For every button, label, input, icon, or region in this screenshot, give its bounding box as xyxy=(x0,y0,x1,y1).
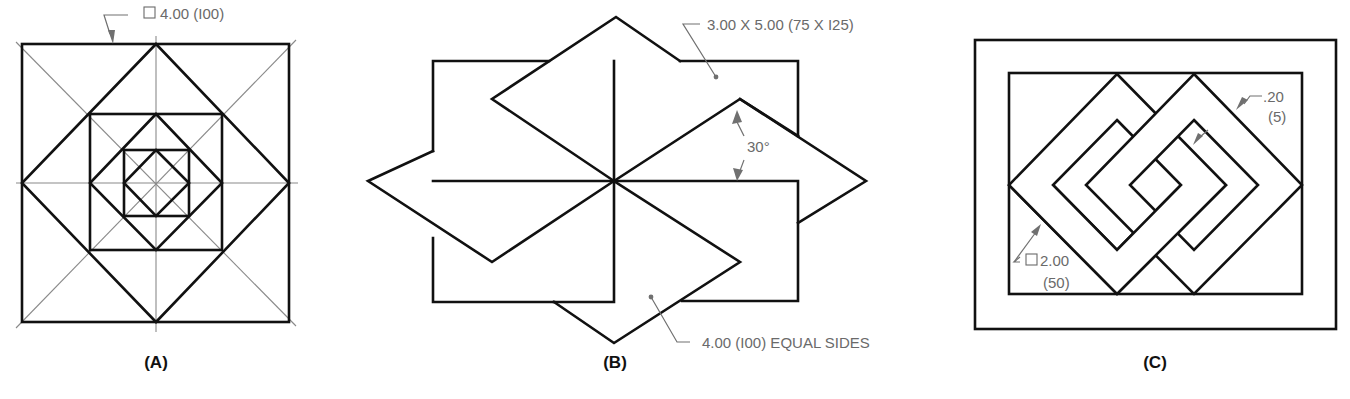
dimension-b-angle: 30° xyxy=(732,110,770,181)
arrowhead-icon xyxy=(1236,97,1248,110)
leader-line xyxy=(651,297,690,342)
square-symbol-icon xyxy=(144,7,155,18)
square-symbol-icon xyxy=(1026,254,1037,265)
leader-dot xyxy=(649,295,654,300)
rhombus-lower xyxy=(554,181,740,343)
drawing-sheet: 4.00 (I00) (A) 3.00 X 5.00 (75 X I25) xyxy=(0,0,1350,399)
rectangle-top-left xyxy=(433,61,549,151)
caption-c: (C) xyxy=(1143,353,1167,372)
dimension-b-rectangle: 3.00 X 5.00 (75 X I25) xyxy=(683,16,854,79)
leader-line xyxy=(104,15,128,34)
arrowhead-icon xyxy=(1193,133,1203,145)
caption-b: (B) xyxy=(603,353,627,372)
panel-b: 3.00 X 5.00 (75 X I25) 30° 4.00 (I00) EQ… xyxy=(368,16,870,372)
angle-text: 30° xyxy=(747,138,770,155)
panel-c: .20 (5) 2.00 (50) (C) xyxy=(975,40,1336,372)
arrowhead-icon xyxy=(108,30,115,44)
caption-a: (A) xyxy=(144,353,168,372)
rectangle-bottom-left-right xyxy=(554,181,614,302)
rectangle-bottom-left xyxy=(433,238,554,302)
dimension-text-line2: (5) xyxy=(1268,108,1286,125)
dimension-b-rhombus: 4.00 (I00) EQUAL SIDES xyxy=(649,295,870,351)
dimension-text: 4.00 (I00) xyxy=(160,5,224,22)
dimension-text: 3.00 X 5.00 (75 X I25) xyxy=(707,16,854,33)
arrowhead-icon xyxy=(732,110,742,124)
dimension-text-line2: (50) xyxy=(1043,274,1070,291)
rhombus-right-edge xyxy=(740,99,798,136)
dimension-text-line1: 2.00 xyxy=(1040,252,1069,269)
dimension-text-line1: .20 xyxy=(1263,88,1284,105)
centerlines xyxy=(16,36,298,332)
dimension-text: 4.00 (I00) EQUAL SIDES xyxy=(702,334,870,351)
leader-dot xyxy=(714,75,719,80)
panel-a: 4.00 (I00) (A) xyxy=(16,5,298,372)
leader-line xyxy=(1014,232,1036,262)
rhombus-left xyxy=(368,151,614,262)
arrowhead-icon xyxy=(1031,224,1041,236)
dimension-a: 4.00 (I00) xyxy=(104,5,224,44)
arrowhead-icon xyxy=(733,168,743,181)
